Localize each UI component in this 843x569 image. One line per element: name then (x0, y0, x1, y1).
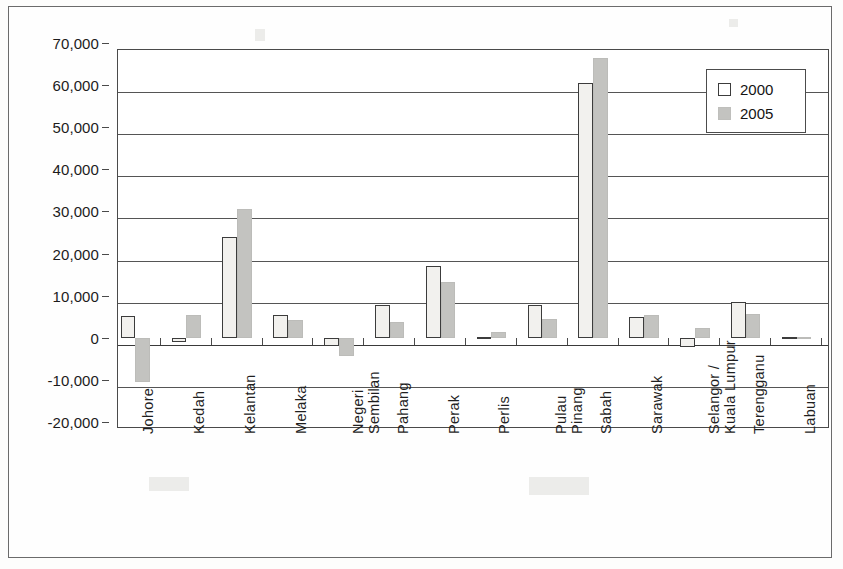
x-axis-label: Johore (140, 388, 156, 434)
x-axis-label: Terengganu (751, 354, 767, 434)
x-tick-mark (262, 338, 263, 345)
bar-2000-selangor-kuala-lumpur (680, 338, 695, 348)
x-axis-label-line: Labuan (802, 384, 818, 434)
bar-2000-melaka (273, 315, 288, 337)
bar-2000-johore (121, 316, 136, 337)
x-tick-mark (363, 338, 364, 345)
gridline (118, 218, 828, 219)
x-axis-label: Sarawak (649, 375, 665, 434)
y-tick-label: 30,000 (3, 203, 99, 220)
legend-swatch-2005-icon (718, 107, 731, 120)
chart-legend: 2000 2005 (706, 69, 806, 133)
y-tick-mark (102, 211, 109, 212)
x-tick-mark (821, 338, 822, 345)
y-tick-label: 40,000 (3, 161, 99, 178)
x-tick-mark (770, 338, 771, 345)
y-tick-mark (102, 43, 109, 44)
x-axis-label: Pahang (395, 382, 411, 434)
x-axis-label-line: Kedah (191, 391, 207, 434)
legend-entry-2005: 2005 (718, 101, 805, 125)
y-tick-label: 60,000 (3, 77, 99, 94)
x-axis-label-line: Kuala Lumpur (722, 340, 738, 434)
bar-2005-kedah (186, 315, 201, 338)
scan-artifact (529, 477, 589, 495)
y-tick-label: 20,000 (3, 245, 99, 262)
chart-page: 70,00060,00050,00040,00030,00020,00010,0… (0, 0, 843, 569)
x-axis-label-line: Perak (446, 395, 462, 434)
x-axis-label: Melaka (293, 385, 309, 434)
y-tick-label: 0 (3, 329, 99, 346)
x-tick-mark (465, 338, 466, 345)
bar-2000-pahang (375, 305, 390, 337)
bar-2000-terengganu (731, 302, 746, 338)
y-tick-mark (102, 169, 109, 170)
x-tick-mark (312, 338, 313, 345)
x-axis-label-line: Perlis (496, 396, 512, 434)
y-tick-mark (102, 422, 109, 423)
y-tick-label: -20,000 (3, 414, 99, 431)
y-tick-mark (102, 338, 109, 339)
x-axis-label: Kedah (191, 391, 207, 434)
x-axis-label-line: Sarawak (649, 375, 665, 434)
x-axis-label: Perlis (496, 396, 512, 434)
bar-2005-perlis (491, 332, 506, 337)
bar-2005-sarawak (644, 315, 659, 338)
bar-2005-selangor-kuala-lumpur (695, 328, 710, 338)
bar-2005-pahang (390, 322, 405, 338)
legend-label-2005: 2005 (740, 105, 773, 122)
bar-2005-terengganu (746, 314, 761, 338)
x-axis-label: Labuan (802, 384, 818, 434)
y-tick-mark (102, 296, 109, 297)
x-axis-label: Sabah (598, 391, 614, 434)
legend-swatch-2000-icon (718, 83, 731, 96)
x-tick-mark (414, 338, 415, 345)
gridline (118, 134, 828, 135)
legend-entry-2000: 2000 (718, 77, 805, 101)
x-axis-label-line: Melaka (293, 385, 309, 434)
bar-2000-kelantan (222, 237, 237, 338)
x-tick-mark (516, 338, 517, 345)
bar-2005-perak (441, 282, 456, 338)
x-tick-mark (618, 338, 619, 345)
y-tick-label: 10,000 (3, 287, 99, 304)
bar-2000-sabah (578, 83, 593, 337)
gridline (118, 176, 828, 177)
x-axis-label: NegeriSembilan (350, 371, 382, 434)
bar-2000-labuan (782, 337, 797, 339)
x-axis-label-line: Johore (140, 388, 156, 434)
bar-2000-pulau-pinang (528, 305, 543, 337)
scan-artifact (729, 19, 738, 27)
bar-2005-negeri-sembilan (339, 338, 354, 356)
scan-artifact (255, 29, 265, 41)
legend-label-2000: 2000 (740, 81, 773, 98)
y-tick-mark (102, 380, 109, 381)
x-axis-label: Kelantan (242, 374, 258, 434)
bar-2000-perlis (477, 337, 492, 339)
scan-artifact (149, 477, 189, 491)
x-tick-mark (668, 338, 669, 345)
x-axis-label-line: Pahang (395, 382, 411, 434)
bar-2000-sarawak (629, 317, 644, 338)
y-tick-label: -10,000 (3, 371, 99, 388)
x-axis-label-line: Selangor / (706, 340, 722, 434)
y-tick-mark (102, 254, 109, 255)
x-axis-label-line: Sabah (598, 391, 614, 434)
x-axis-label: Perak (446, 395, 462, 434)
x-axis-label-line: Kelantan (242, 374, 258, 434)
y-tick-mark (102, 127, 109, 128)
bar-2005-johore (135, 338, 150, 382)
x-axis-label: Selangor /Kuala Lumpur (706, 340, 738, 434)
bar-2000-negeri-sembilan (324, 338, 339, 346)
bar-2005-kelantan (237, 209, 252, 337)
bar-2005-labuan (797, 337, 812, 339)
x-axis-label-line: Sembilan (366, 371, 382, 434)
bar-2005-pulau-pinang (542, 319, 557, 338)
bar-2000-perak (426, 266, 441, 338)
x-tick-mark (160, 338, 161, 345)
y-tick-label: 70,000 (3, 35, 99, 52)
bar-2005-sabah (593, 58, 608, 338)
x-axis-label-line: Pulau (553, 387, 569, 434)
y-tick-mark (102, 85, 109, 86)
y-tick-label: 50,000 (3, 119, 99, 136)
figure-frame: 70,00060,00050,00040,00030,00020,00010,0… (8, 6, 832, 558)
